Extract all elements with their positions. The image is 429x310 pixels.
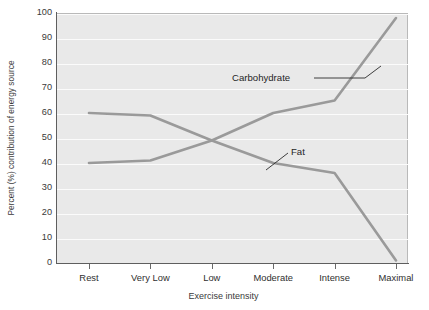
x-axis-tick-label: Low [203,272,220,283]
series-line-fat [89,113,396,261]
x-axis-tick [396,264,397,269]
x-axis-tick [212,264,213,269]
chart-figure: Percent (%) contribution of energy sourc… [0,0,429,310]
x-axis-tick [89,264,90,269]
data-lines-layer [0,0,429,310]
x-axis-title-text: Exercise intensity [170,291,258,301]
x-axis-tick-label: Maximal [379,272,414,283]
carbohydrate-leader-line-2 [365,66,381,78]
series-line-carbohydrate [89,18,396,163]
x-axis-tick [335,264,336,269]
x-axis-tick-label: Rest [79,272,98,283]
series-annotation-fat: Fat [291,146,305,157]
x-axis-tick [273,264,274,269]
x-axis-tick-label: Intense [319,272,350,283]
x-axis-tick-label: Moderate [253,272,293,283]
series-annotation-carbohydrate: Carbohydrate [232,72,290,83]
x-axis-title: Exercise intensity [0,291,429,301]
x-axis-tick [150,264,151,269]
x-axis-tick-label: Very Low [131,272,170,283]
